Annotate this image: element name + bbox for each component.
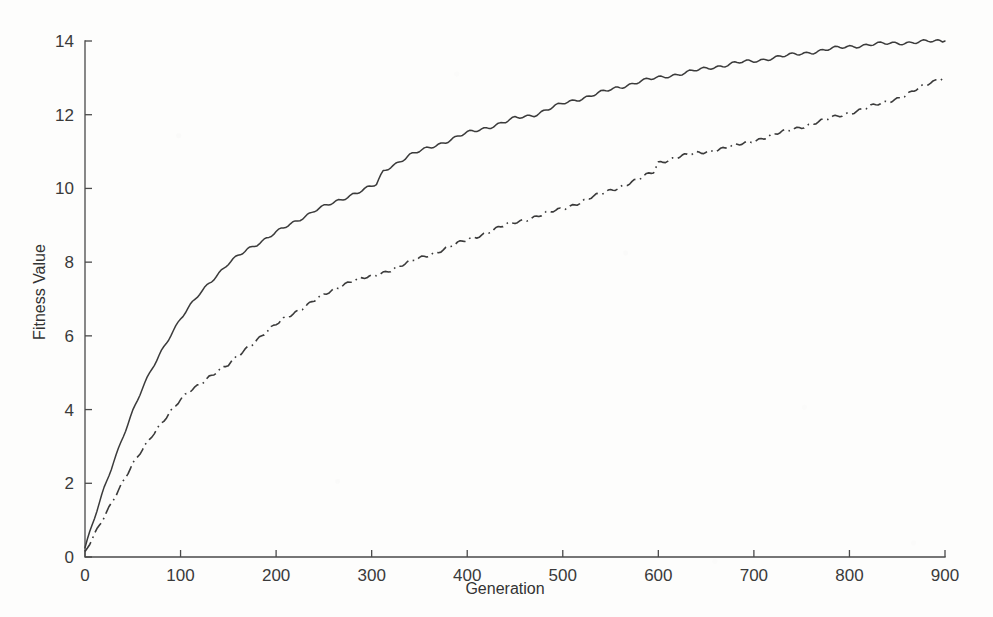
x-tick-label: 200 xyxy=(262,566,290,585)
x-tick-label: 600 xyxy=(644,566,672,585)
series-dash-dot-curve xyxy=(85,76,945,551)
y-tick-label: 12 xyxy=(55,106,74,125)
y-tick-label: 10 xyxy=(55,179,74,198)
data-series-group xyxy=(85,40,945,552)
series-solid-curve xyxy=(85,40,945,548)
y-tick-label: 14 xyxy=(55,32,74,51)
x-tick-label: 100 xyxy=(166,566,194,585)
axes-group xyxy=(85,41,945,557)
x-tick-label: 800 xyxy=(835,566,863,585)
y-tick-label: 6 xyxy=(65,327,74,346)
x-tick-label: 300 xyxy=(357,566,385,585)
y-tick-label: 4 xyxy=(65,401,74,420)
y-axis-title: Fitness Value xyxy=(31,244,48,340)
axis-spines xyxy=(85,41,945,557)
x-tick-label: 0 xyxy=(80,566,89,585)
y-tick-label: 8 xyxy=(65,253,74,272)
x-axis-title: Generation xyxy=(465,580,544,597)
x-tick-label: 900 xyxy=(931,566,959,585)
figure-container: 0100200300400500600700800900 02468101214… xyxy=(0,0,993,617)
y-tick-label: 2 xyxy=(65,474,74,493)
y-tick-label: 0 xyxy=(65,548,74,567)
tick-marks-group xyxy=(85,41,945,557)
x-tick-label: 700 xyxy=(740,566,768,585)
line-chart: 0100200300400500600700800900 02468101214… xyxy=(0,0,993,617)
x-tick-label: 500 xyxy=(549,566,577,585)
y-tick-labels-group: 02468101214 xyxy=(55,32,74,567)
